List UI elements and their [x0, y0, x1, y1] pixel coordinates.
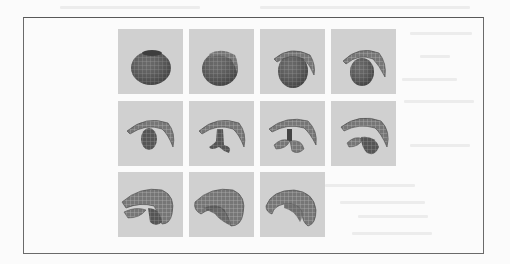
split-tube-render: [118, 172, 183, 237]
figure-frame-1: [118, 29, 183, 94]
figure-frame-9: [118, 172, 183, 237]
figure-frame-7: [260, 101, 325, 166]
figure-frame-5: [118, 101, 183, 166]
curved-tube-render: [260, 172, 325, 237]
arc-with-tube-forming-render: [331, 101, 396, 166]
sphere-render: [118, 29, 183, 94]
sphere-with-arc-render: [260, 29, 325, 94]
show-through-mark: [60, 6, 200, 9]
figure-frame-4: [331, 29, 396, 94]
figure-frame-6: [189, 101, 254, 166]
figure-frame-10: [189, 172, 254, 237]
arc-with-stem-render: [189, 101, 254, 166]
figure-frame-2: [189, 29, 254, 94]
arc-with-lobes-render: [260, 101, 325, 166]
tube-nearly-closed-render: [189, 172, 254, 237]
show-through-mark: [260, 6, 470, 9]
arc-with-ellipsoid-render: [118, 101, 183, 166]
small-sphere-with-arc-render: [331, 29, 396, 94]
sphere-opening-render: [189, 29, 254, 94]
figure-frame-8: [331, 101, 396, 166]
figure-frame-11: [260, 172, 325, 237]
figure-frame-3: [260, 29, 325, 94]
